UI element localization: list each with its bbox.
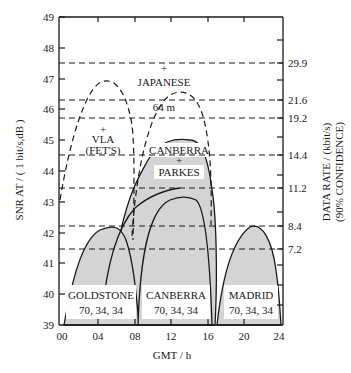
svg-text:12: 12	[166, 330, 177, 342]
y-tick-labels: 49 48 47 46 45 44 43 42 41 40 39	[43, 11, 55, 331]
svg-text:64 m: 64 m	[153, 101, 176, 113]
svg-text:39: 39	[43, 319, 55, 331]
svg-text:49: 49	[43, 11, 55, 23]
svg-text:70, 34, 34: 70, 34, 34	[154, 304, 199, 316]
svg-text:20: 20	[239, 330, 251, 342]
svg-text:14.4: 14.4	[288, 149, 308, 161]
vla-curve	[60, 81, 134, 240]
svg-text:MADRID: MADRID	[229, 289, 274, 301]
svg-text:JAPANESE: JAPANESE	[138, 76, 191, 88]
svg-text:70, 34, 34: 70, 34, 34	[79, 304, 124, 316]
svg-text:21.6: 21.6	[288, 94, 308, 106]
svg-text:19.2: 19.2	[288, 112, 307, 124]
svg-text:24: 24	[274, 330, 286, 342]
svg-text:44: 44	[43, 165, 55, 177]
svg-text:29.9: 29.9	[288, 57, 308, 69]
svg-text:41: 41	[43, 257, 54, 269]
svg-text:45: 45	[43, 134, 55, 146]
svg-text:PARKES: PARKES	[158, 166, 199, 178]
svg-text:40: 40	[43, 288, 55, 300]
svg-text:+: +	[176, 154, 182, 166]
right-axis-ticks	[277, 40, 283, 305]
svg-text:16: 16	[203, 330, 215, 342]
y-axis-title: SNR AT / ( 1 bit/s,dB )	[13, 119, 26, 220]
y2-axis-title-line2: (90% CONFIDENCE)	[333, 122, 346, 222]
x-tick-labels: 00 04 08 12 16 20 24	[57, 330, 286, 342]
y2-axis-title-line1: DATA RATE / (kbit/s)	[320, 122, 333, 221]
svg-text:7.2: 7.2	[288, 243, 302, 255]
svg-text:08: 08	[130, 330, 142, 342]
svg-text:04: 04	[93, 330, 105, 342]
svg-text:70, 34, 34: 70, 34, 34	[229, 304, 274, 316]
svg-text:8.4: 8.4	[288, 220, 302, 232]
svg-text:11.2: 11.2	[288, 182, 307, 194]
rate-tick-labels: 29.9 21.6 19.2 14.4 11.2 8.4 7.2	[288, 57, 308, 255]
svg-text:43: 43	[43, 196, 55, 208]
svg-text:(FET'S): (FET'S)	[86, 144, 121, 157]
svg-text:00: 00	[57, 330, 69, 342]
svg-text:CANBERRA: CANBERRA	[146, 289, 206, 301]
svg-text:47: 47	[43, 73, 55, 85]
snr-chart: 49 48 47 46 45 44 43 42 41 40 39 00 04 0…	[0, 0, 351, 373]
svg-text:48: 48	[43, 42, 55, 54]
svg-text:42: 42	[43, 227, 54, 239]
svg-text:46: 46	[43, 103, 55, 115]
svg-text:+: +	[161, 62, 167, 74]
svg-text:GOLDSTONE: GOLDSTONE	[68, 289, 134, 301]
x-axis-title: GMT / h	[153, 349, 192, 361]
